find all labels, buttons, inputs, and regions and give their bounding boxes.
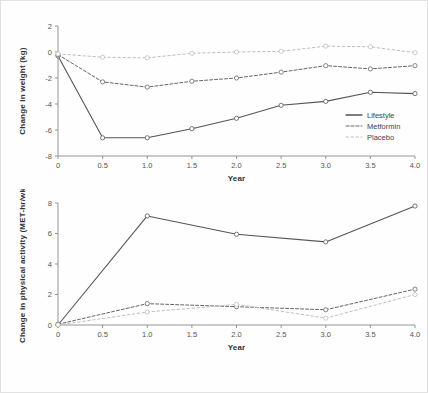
x-tick-label: 3.0 bbox=[321, 330, 331, 339]
data-point-placebo bbox=[279, 49, 283, 53]
data-point-lifestyle bbox=[101, 136, 105, 140]
x-axis-title: Year bbox=[228, 343, 246, 352]
series-line-placebo bbox=[58, 295, 415, 326]
y-tick-label: 6 bbox=[48, 229, 52, 238]
data-point-placebo bbox=[234, 50, 238, 54]
y-tick-label: 0 bbox=[48, 48, 52, 57]
x-tick-label: 2.5 bbox=[276, 330, 286, 339]
data-point-placebo bbox=[145, 56, 149, 60]
data-point-placebo bbox=[368, 45, 372, 49]
weight-change-chart: 20-2-4-6-800.51.01.52.02.53.03.54.0YearC… bbox=[1, 1, 428, 189]
data-point-metformin bbox=[145, 85, 149, 89]
x-tick-label: 2.0 bbox=[231, 161, 241, 170]
y-tick-label: 2 bbox=[48, 22, 52, 31]
x-tick-label: 2.5 bbox=[276, 161, 286, 170]
y-tick-label: 2 bbox=[48, 290, 52, 299]
data-point-metformin bbox=[413, 287, 417, 291]
data-point-placebo bbox=[413, 51, 417, 55]
x-tick-label: 0.5 bbox=[97, 161, 107, 170]
x-tick-label: 1.0 bbox=[142, 161, 152, 170]
y-tick-label: 0 bbox=[48, 321, 52, 330]
y-tick-label: 4 bbox=[48, 260, 52, 269]
x-axis-title: Year bbox=[228, 174, 246, 183]
x-tick-label: 4.0 bbox=[410, 161, 420, 170]
x-tick-label: 0 bbox=[56, 161, 60, 170]
y-tick-label: -6 bbox=[45, 126, 52, 135]
data-point-placebo bbox=[56, 323, 60, 327]
x-tick-label: 1.5 bbox=[187, 330, 197, 339]
x-tick-label: 3.0 bbox=[321, 161, 331, 170]
data-point-lifestyle bbox=[234, 116, 238, 120]
x-tick-label: 3.5 bbox=[365, 330, 375, 339]
data-point-lifestyle bbox=[413, 92, 417, 96]
data-point-lifestyle bbox=[190, 127, 194, 131]
data-point-placebo bbox=[190, 51, 194, 55]
data-point-lifestyle bbox=[368, 90, 372, 94]
y-tick-label: -4 bbox=[45, 100, 52, 109]
legend-label-metformin: Metformin bbox=[367, 122, 400, 131]
x-tick-label: 3.5 bbox=[365, 161, 375, 170]
series-line-metformin bbox=[58, 55, 415, 88]
y-axis-title: Change in weight (kg) bbox=[18, 47, 27, 134]
y-tick-label: 8 bbox=[48, 199, 52, 208]
y-tick-label: -2 bbox=[45, 74, 52, 83]
data-point-placebo bbox=[324, 316, 328, 320]
data-point-placebo bbox=[145, 310, 149, 314]
data-point-placebo bbox=[234, 302, 238, 306]
x-tick-label: 4.0 bbox=[410, 330, 420, 339]
legend-label-lifestyle: Lifestyle bbox=[367, 111, 395, 120]
data-point-placebo bbox=[101, 55, 105, 59]
data-point-metformin bbox=[324, 64, 328, 68]
chart-panel-activity: 8642000.51.01.52.02.53.03.54.0YearChange… bbox=[1, 189, 428, 393]
legend-label-placebo: Placebo bbox=[367, 133, 394, 142]
data-point-metformin bbox=[145, 302, 149, 306]
x-tick-label: 2.0 bbox=[231, 330, 241, 339]
data-point-lifestyle bbox=[279, 103, 283, 107]
x-tick-label: 1.5 bbox=[187, 161, 197, 170]
data-point-lifestyle bbox=[145, 214, 149, 218]
data-point-metformin bbox=[279, 70, 283, 74]
physical-activity-chart: 8642000.51.01.52.02.53.03.54.0YearChange… bbox=[1, 189, 428, 393]
figure-container: 20-2-4-6-800.51.01.52.02.53.03.54.0YearC… bbox=[0, 0, 428, 393]
data-point-metformin bbox=[190, 79, 194, 83]
data-point-metformin bbox=[368, 67, 372, 71]
data-point-metformin bbox=[101, 80, 105, 84]
data-point-metformin bbox=[413, 64, 417, 68]
data-point-lifestyle bbox=[413, 204, 417, 208]
x-tick-label: 0 bbox=[56, 330, 60, 339]
data-point-placebo bbox=[413, 292, 417, 296]
data-point-lifestyle bbox=[324, 99, 328, 103]
y-axis-title: Change in physical activity (MET-hr/wk) bbox=[18, 189, 27, 343]
y-tick-label: -8 bbox=[45, 152, 52, 161]
data-point-placebo bbox=[56, 52, 60, 56]
data-point-metformin bbox=[234, 76, 238, 80]
data-point-placebo bbox=[324, 44, 328, 48]
chart-panel-weight: 20-2-4-6-800.51.01.52.02.53.03.54.0YearC… bbox=[1, 1, 428, 189]
x-tick-label: 1.0 bbox=[142, 330, 152, 339]
data-point-lifestyle bbox=[324, 240, 328, 244]
data-point-metformin bbox=[324, 308, 328, 312]
data-point-lifestyle bbox=[145, 136, 149, 140]
x-tick-label: 0.5 bbox=[97, 330, 107, 339]
data-point-lifestyle bbox=[234, 232, 238, 236]
